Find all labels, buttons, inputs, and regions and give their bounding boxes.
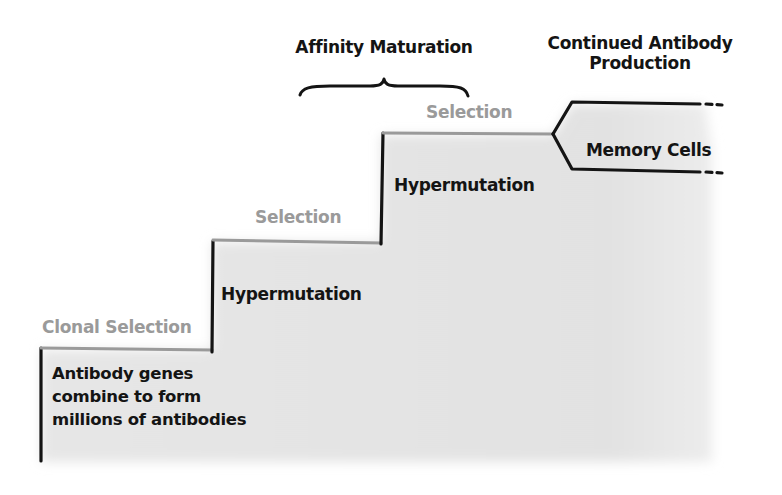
affinity-maturation-brace	[300, 79, 468, 96]
step1-riser	[212, 241, 213, 352]
step1-description-line1: Antibody genes	[52, 362, 246, 385]
continued-production-line1: Continued Antibody	[540, 34, 740, 54]
fork-upper-branch	[553, 102, 700, 134]
step1-top-edge	[41, 348, 212, 350]
continued-production-line2: Production	[540, 54, 740, 74]
affinity-maturation-heading: Affinity Maturation	[286, 38, 482, 58]
step1-description: Antibody genes combine to form millions …	[52, 362, 246, 431]
step3-label: Selection	[426, 103, 512, 123]
step2-top-edge	[213, 240, 381, 243]
step2-description: Hypermutation	[221, 285, 362, 305]
memory-cells-label: Memory Cells	[586, 141, 711, 161]
step3-description: Hypermutation	[394, 176, 535, 196]
step2-riser	[381, 133, 383, 244]
step2-label: Selection	[255, 208, 341, 228]
continued-production-heading: Continued Antibody Production	[540, 34, 740, 73]
step3-top-edge	[383, 133, 553, 134]
step1-description-line2: combine to form	[52, 385, 246, 408]
lower-continuation-dashes	[706, 172, 722, 173]
step1-description-line3: millions of antibodies	[52, 408, 246, 431]
step1-label: Clonal Selection	[42, 318, 191, 338]
upper-continuation-dashes	[706, 104, 722, 105]
